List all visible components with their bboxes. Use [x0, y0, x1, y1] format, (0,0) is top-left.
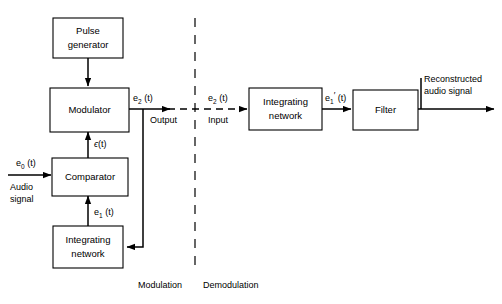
- block-integrating-network-rx[interactable]: Integrating network: [249, 88, 322, 130]
- block-pulse-generator-label-line1: Pulse: [76, 25, 100, 36]
- caption-input: Input: [208, 115, 229, 125]
- signal-label-e1-prime: e1′ (t): [325, 90, 346, 104]
- caption-audio-signal-line2: signal: [10, 194, 34, 204]
- caption-reconstructed-line2: audio signal: [424, 86, 472, 96]
- diagram-canvas: Pulse generator Modulator Comparator Int…: [0, 0, 502, 304]
- signal-label-e2-output: e2 (t): [133, 93, 153, 105]
- block-integrating-network-tx-label-line1: Integrating: [66, 234, 111, 245]
- block-integrating-network-tx-label-line2: network: [71, 248, 105, 259]
- caption-reconstructed-line1: Reconstructed: [424, 74, 482, 84]
- block-filter-label: Filter: [375, 104, 396, 115]
- signal-label-epsilon: ϵ(t): [94, 139, 106, 149]
- caption-audio-signal-line1: Audio: [10, 182, 33, 192]
- block-integrating-network-rx-label-line1: Integrating: [263, 96, 308, 107]
- signal-e2-output-tail: (t): [142, 93, 153, 103]
- block-comparator-label: Comparator: [65, 171, 115, 182]
- block-modulator[interactable]: Modulator: [50, 88, 129, 132]
- region-label-demodulation: Demodulation: [203, 280, 259, 290]
- signal-epsilon-tail: (t): [98, 139, 107, 149]
- block-integrating-network-tx[interactable]: Integrating network: [53, 226, 123, 268]
- block-integrating-network-rx-label-line2: network: [269, 110, 303, 121]
- block-filter[interactable]: Filter: [353, 90, 418, 130]
- block-pulse-generator-label-line2: generator: [68, 39, 109, 50]
- signal-label-audio-input: e0 (t): [16, 158, 36, 170]
- signal-e1-prime-tail: (t): [335, 93, 346, 103]
- caption-output: Output: [150, 115, 178, 125]
- signal-e2-input-tail: (t): [217, 93, 228, 103]
- signal-label-e1: e1 (t): [94, 207, 114, 219]
- block-comparator[interactable]: Comparator: [52, 158, 128, 196]
- region-label-modulation: Modulation: [138, 280, 182, 290]
- signal-e1-tail: (t): [103, 207, 114, 217]
- signal-audio-input-tail: (t): [25, 158, 36, 168]
- block-pulse-generator[interactable]: Pulse generator: [53, 18, 123, 58]
- signal-label-e2-input: e2 (t): [208, 93, 228, 105]
- block-modulator-label: Modulator: [68, 104, 110, 115]
- block-diagram-figure: Pulse generator Modulator Comparator Int…: [0, 0, 502, 304]
